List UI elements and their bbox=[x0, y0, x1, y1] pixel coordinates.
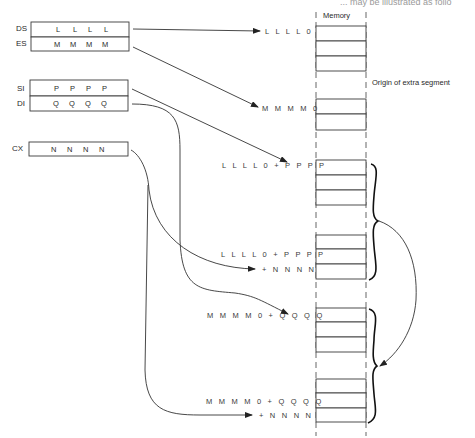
memory-cell bbox=[316, 337, 366, 352]
register-value: N bbox=[67, 145, 72, 154]
memory-cell bbox=[316, 393, 366, 408]
memory-cell bbox=[316, 41, 366, 56]
register-value: Q bbox=[85, 99, 91, 108]
arrow-cx-to-dest-end bbox=[145, 185, 252, 415]
register-label-si: SI bbox=[17, 84, 25, 93]
brace-dest-block bbox=[368, 309, 377, 423]
register-value: N bbox=[83, 145, 88, 154]
register-group-cx: CX N N N N bbox=[12, 142, 128, 156]
memory-column: Memory bbox=[316, 11, 451, 436]
memory-cell bbox=[316, 408, 366, 422]
register-box-ds bbox=[31, 22, 129, 37]
register-value: M bbox=[86, 40, 92, 49]
register-label-cx: CX bbox=[12, 144, 24, 153]
address-source-end-line2: + N N N N bbox=[262, 265, 316, 274]
brace-source-block bbox=[369, 164, 378, 280]
memory-title: Memory bbox=[323, 11, 350, 20]
memory-cell bbox=[316, 114, 366, 130]
register-box-si bbox=[30, 80, 128, 96]
extra-segment-origin-note: Origin of extra segment bbox=[372, 78, 451, 87]
cut-off-caption: ... may be illustrated as follo bbox=[340, 0, 452, 7]
register-value: M bbox=[102, 40, 108, 49]
memory-cell bbox=[316, 235, 366, 249]
register-label-ds: DS bbox=[16, 24, 27, 33]
register-value: L bbox=[56, 25, 60, 34]
register-value: M bbox=[70, 40, 76, 49]
memory-cell bbox=[316, 26, 366, 41]
register-value: L bbox=[88, 25, 92, 34]
address-dest-end-line1: M M M M 0 + Q Q Q Q bbox=[206, 397, 323, 406]
arrow-source-to-dest-block bbox=[379, 221, 416, 366]
register-value: M bbox=[54, 40, 60, 49]
address-dest-end-line2: + N N N N bbox=[259, 411, 313, 420]
connector-arrows bbox=[131, 29, 288, 415]
register-value: L bbox=[104, 25, 108, 34]
memory-cell bbox=[316, 379, 366, 393]
register-value: Q bbox=[101, 99, 107, 108]
memory-block-es-origin bbox=[316, 99, 366, 130]
register-label-es: ES bbox=[16, 39, 27, 48]
arrow-si-to-source-start bbox=[132, 89, 287, 162]
arrow-ds-to-origin bbox=[133, 29, 260, 31]
memory-cell bbox=[316, 56, 366, 71]
register-value: L bbox=[73, 25, 77, 34]
address-source-start: L L L L 0 + P P P P bbox=[222, 161, 326, 170]
memory-cell bbox=[316, 175, 366, 190]
register-box-cx bbox=[29, 142, 128, 156]
register-label-di: DI bbox=[17, 99, 25, 108]
arrow-di-to-dest-start bbox=[132, 104, 288, 314]
register-box-es bbox=[31, 37, 129, 51]
register-value: P bbox=[70, 84, 75, 93]
address-es-origin: M M M M 0 bbox=[262, 104, 319, 113]
register-group-si-di: SI DI P P P P Q Q Q Q bbox=[17, 80, 128, 111]
memory-block-ds-origin bbox=[316, 26, 366, 71]
register-value: P bbox=[102, 84, 107, 93]
memory-block-dest-end bbox=[316, 379, 366, 422]
address-source-end-line1: L L L L 0 + P P P P bbox=[221, 250, 325, 259]
register-value: N bbox=[99, 145, 104, 154]
register-value: Q bbox=[53, 99, 59, 108]
string-move-diagram: ... may be illustrated as follo DS ES L … bbox=[0, 0, 475, 438]
braces bbox=[368, 164, 416, 423]
memory-cell bbox=[316, 190, 366, 205]
memory-cell bbox=[316, 322, 366, 337]
register-group-ds-es: DS ES L L L L M M M M bbox=[16, 22, 129, 51]
register-box-di bbox=[30, 96, 128, 111]
register-value: P bbox=[54, 84, 59, 93]
address-dest-start: M M M M 0 + Q Q Q Q bbox=[207, 311, 324, 320]
register-value: N bbox=[51, 145, 56, 154]
address-ds-origin: L L L L 0 bbox=[265, 27, 313, 36]
memory-cell bbox=[316, 99, 366, 114]
register-value: P bbox=[86, 84, 91, 93]
memory-cell bbox=[316, 264, 366, 279]
register-value: Q bbox=[69, 99, 75, 108]
